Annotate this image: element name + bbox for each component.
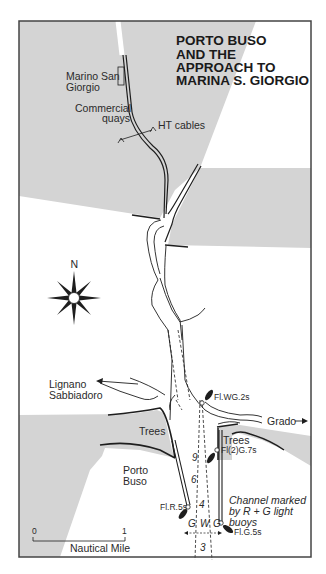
sector-g-left: G bbox=[188, 518, 196, 529]
title-line-4: MARINA S. GIORGIO bbox=[176, 73, 309, 88]
lignano-label-2: Sabbiadoro bbox=[49, 389, 103, 401]
ht-cables-label: HT cables bbox=[158, 119, 205, 131]
scale-start: 0 bbox=[32, 526, 37, 536]
quays-label-2: quays bbox=[102, 112, 130, 124]
scale-end: 1 bbox=[122, 526, 127, 536]
trees-west-label: Trees bbox=[139, 425, 165, 437]
scale-unit: Nautical Mile bbox=[70, 542, 130, 554]
depth-3: 3 bbox=[200, 542, 206, 553]
depth-6: 6 bbox=[191, 474, 197, 485]
depth-9: 9 bbox=[192, 452, 198, 463]
sector-g-right: G bbox=[213, 518, 221, 529]
light-fl-g-label: Fl.G.5s bbox=[234, 527, 261, 537]
note-line-3: buoys bbox=[229, 516, 258, 528]
grado-label: Grado bbox=[267, 415, 296, 427]
depth-4: 4 bbox=[199, 499, 205, 510]
light-fl-2g-label: Fl(2)G.7s bbox=[221, 445, 256, 455]
compass-north-label: N bbox=[71, 258, 79, 270]
marina-label-2: Giorgio bbox=[66, 81, 100, 93]
title-line-1: PORTO BUSO bbox=[176, 33, 267, 48]
light-fl-wg-label: Fl.WG.2s bbox=[214, 392, 249, 402]
porto-buso-label-2: Buso bbox=[123, 475, 147, 487]
light-fl-r-label: Fl.R.5s bbox=[160, 502, 187, 512]
sector-w: W bbox=[200, 518, 211, 529]
chart-map: PORTO BUSO AND THE APPROACH TO MARINA S.… bbox=[0, 0, 326, 574]
